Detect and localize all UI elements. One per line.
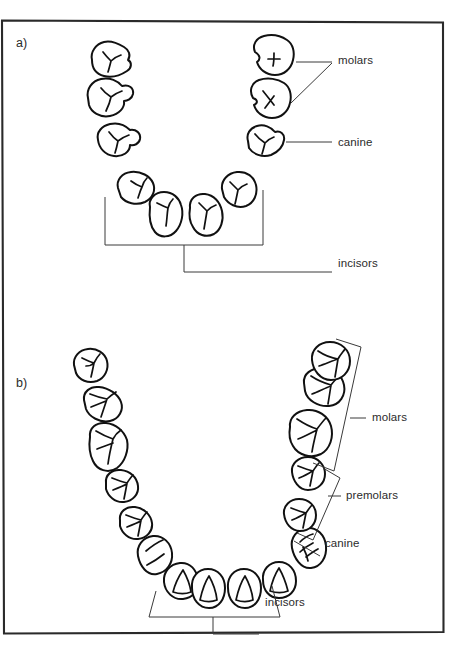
panel-a-tag: a) bbox=[16, 36, 27, 50]
panel-a-group bbox=[88, 35, 332, 272]
tooth-a-left-canine bbox=[98, 123, 141, 156]
panel-b-label-premolars: premolars bbox=[346, 489, 398, 501]
tooth-b-left-molar-1 bbox=[89, 423, 127, 471]
dental-arch-figure bbox=[0, 0, 453, 650]
tooth-a-left-incisor-2 bbox=[118, 172, 155, 204]
tooth-a-right-molar-2 bbox=[251, 79, 291, 118]
tooth-b-left-premolar-2 bbox=[106, 470, 138, 502]
panel-b-label-canine: canine bbox=[325, 537, 360, 549]
tooth-a-left-molar-2 bbox=[88, 78, 134, 116]
panel-b-group bbox=[74, 339, 366, 634]
panel-a-label-molars: molars bbox=[338, 54, 373, 66]
tooth-b-right-molar-1 bbox=[289, 410, 332, 456]
tooth-a-right-incisor-1 bbox=[189, 194, 222, 236]
panel-b-label-molars: molars bbox=[372, 411, 407, 423]
tooth-b-right-molar-3 bbox=[312, 342, 350, 380]
tooth-b-right-incisor-1 bbox=[228, 569, 261, 608]
panel-b-label-incisors: incisors bbox=[265, 596, 305, 608]
tooth-a-right-molar-1 bbox=[254, 35, 294, 75]
tooth-b-left-molar-3 bbox=[74, 349, 108, 382]
tooth-b-right-premolar-2 bbox=[292, 457, 325, 490]
tooth-a-left-incisor-1 bbox=[150, 192, 183, 236]
tooth-a-left-molar-1 bbox=[92, 41, 131, 76]
tooth-b-right-incisor-2 bbox=[263, 562, 296, 598]
panel-a-label-incisors: incisors bbox=[338, 257, 378, 269]
tooth-b-left-molar-2 bbox=[84, 387, 122, 421]
tooth-b-left-incisor-1 bbox=[192, 569, 225, 608]
figure-frame bbox=[2, 21, 444, 634]
tooth-b-right-premolar-1 bbox=[284, 499, 316, 531]
molars-leader-a bbox=[290, 62, 332, 104]
panel-a-label-canine: canine bbox=[338, 136, 373, 148]
tooth-b-right-canine bbox=[292, 528, 326, 568]
tooth-a-right-canine bbox=[247, 125, 284, 156]
tooth-b-left-premolar-1 bbox=[120, 507, 152, 539]
figure-page: a) molars canine incisors b) molars prem… bbox=[0, 0, 453, 650]
tooth-b-left-canine bbox=[138, 536, 172, 574]
tooth-a-right-incisor-2 bbox=[222, 172, 257, 207]
panel-b-tag: b) bbox=[16, 376, 27, 390]
